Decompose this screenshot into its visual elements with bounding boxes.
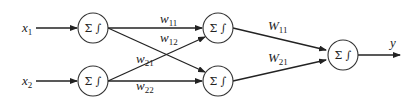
input-label-x2: x2: [21, 73, 32, 90]
input-label-x1: x1: [21, 20, 32, 37]
sum-integral-symbol: Σ ∫: [84, 22, 101, 35]
weight-label-w11: w11: [160, 11, 177, 28]
weight-label-w21: w21: [136, 51, 154, 68]
node-input-1: Σ ∫: [78, 13, 108, 43]
edge-w12: [108, 28, 205, 72]
weight-label-w12: w12: [160, 30, 178, 47]
neural-network-diagram: x1 x2 w11 w12 w21 w22 W11 W21 y Σ ∫ Σ ∫ …: [0, 0, 417, 103]
node-hidden-2: Σ ∫: [203, 66, 233, 96]
weight-label-W21: W21: [268, 50, 288, 67]
sum-integral-symbol: Σ ∫: [334, 49, 351, 62]
node-hidden-1: Σ ∫: [203, 13, 233, 43]
sum-integral-symbol: Σ ∫: [84, 75, 101, 88]
node-input-2: Σ ∫: [78, 66, 108, 96]
sum-integral-symbol: Σ ∫: [209, 75, 226, 88]
sum-integral-symbol: Σ ∫: [209, 22, 226, 35]
weight-label-W11: W11: [268, 18, 288, 35]
output-label-y: y: [388, 35, 396, 50]
node-output: Σ ∫: [328, 40, 358, 70]
edge-w21: [108, 37, 205, 81]
